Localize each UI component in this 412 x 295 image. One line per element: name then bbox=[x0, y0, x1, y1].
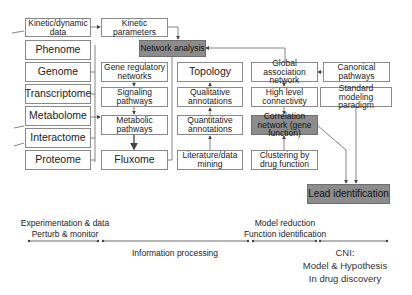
node-correlation-network: Correlation network (gene function) bbox=[251, 115, 318, 135]
node-quantitative-annotations: Quantitative annotations bbox=[177, 115, 243, 135]
node-lead-identification: Lead identification bbox=[307, 184, 390, 204]
node-proteome: Proteome bbox=[25, 150, 91, 170]
node-phenome: Phenome bbox=[25, 40, 91, 60]
node-metabolome: Metabolome bbox=[25, 106, 91, 126]
node-canonical-pathways: Canonical pathways bbox=[323, 62, 390, 82]
node-high-level-connectivity: High level connectivity bbox=[251, 87, 318, 107]
timeline-stage-experimentation: Experimentation & data Perturb & monitor bbox=[20, 218, 110, 239]
timeline-stage-model-reduction: Model reduction Function identification bbox=[240, 218, 330, 239]
node-network-analysis: Network analysis bbox=[139, 40, 206, 57]
node-interactome: Interactome bbox=[25, 128, 91, 148]
node-kinetic-dynamic-data: Kinetic/dynamic data bbox=[25, 18, 91, 37]
node-qualitative-annotations: Qualitative annotations bbox=[177, 87, 243, 107]
node-metabolic-pathways: Metabolic pathways bbox=[101, 115, 168, 135]
node-transcriptome: Transcriptome bbox=[25, 84, 91, 104]
timeline-stage-information-processing: Information processing bbox=[125, 248, 225, 259]
node-fluxome: Fluxome bbox=[101, 150, 168, 170]
node-topology: Topology bbox=[177, 62, 243, 82]
node-global-association-network: Global association network bbox=[251, 62, 318, 82]
node-genome: Genome bbox=[25, 62, 91, 82]
timeline-stage-cni: CNI: Model & Hypothesis In drug discover… bbox=[290, 247, 400, 285]
node-signaling-pathways: Signaling pathways bbox=[101, 87, 168, 107]
node-gene-regulatory-networks: Gene regulatory networks bbox=[101, 62, 168, 82]
node-standard-modeling-paradigm: Standard modeling paradigm bbox=[320, 87, 392, 107]
node-clustering-by-drug-function: Clustering by drug function bbox=[251, 150, 318, 170]
node-kinetic-parameters: Kinetic parameters bbox=[101, 18, 168, 37]
node-literature-data-mining: Literature/data mining bbox=[177, 150, 243, 170]
